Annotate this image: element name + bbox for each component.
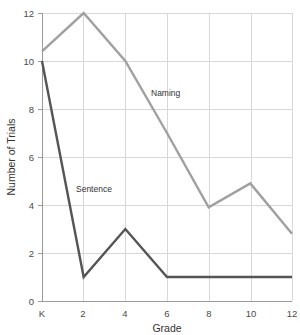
xtick-label-10: 10 bbox=[246, 308, 257, 319]
xtick-label-4: 4 bbox=[122, 308, 127, 319]
xtick-label-12: 12 bbox=[287, 308, 298, 319]
ytick-label-8: 8 bbox=[29, 104, 34, 115]
ytick-label-0: 0 bbox=[29, 296, 34, 307]
x-axis-tick-labels: K 2 4 6 8 10 12 bbox=[39, 308, 297, 319]
ytick-label-6: 6 bbox=[29, 152, 34, 163]
xtick-label-6: 6 bbox=[164, 308, 169, 319]
line-chart: 12 10 8 6 4 2 0 K 2 4 6 8 10 12 Naming S… bbox=[0, 0, 300, 335]
ytick-label-4: 4 bbox=[29, 200, 34, 211]
ytick-label-2: 2 bbox=[29, 248, 34, 259]
ytick-label-10: 10 bbox=[23, 56, 34, 67]
xtick-label-2: 2 bbox=[80, 308, 85, 319]
series-label-sentence: Sentence bbox=[76, 184, 112, 194]
ytick-label-12: 12 bbox=[23, 8, 34, 19]
xtick-label-k: K bbox=[39, 308, 46, 319]
series-label-naming: Naming bbox=[151, 88, 181, 98]
x-axis-title: Grade bbox=[152, 322, 181, 334]
y-axis-title: Number of Trials bbox=[5, 118, 17, 195]
y-axis-ticks bbox=[38, 13, 42, 301]
y-axis-tick-labels: 12 10 8 6 4 2 0 bbox=[23, 8, 34, 307]
chart-canvas: 12 10 8 6 4 2 0 K 2 4 6 8 10 12 Naming S… bbox=[0, 0, 300, 335]
xtick-label-8: 8 bbox=[206, 308, 211, 319]
